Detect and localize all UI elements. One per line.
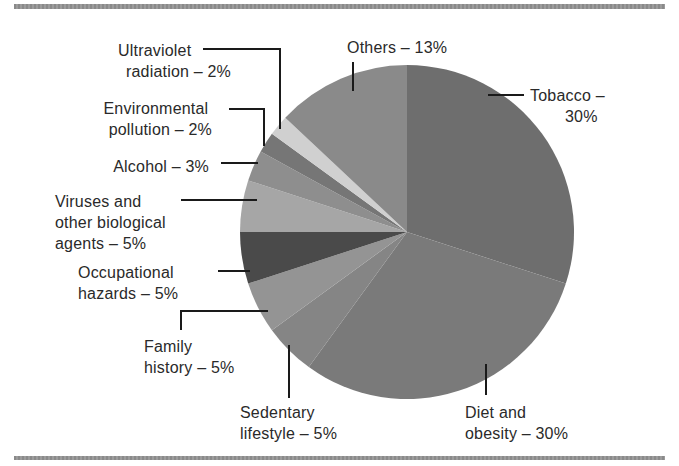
label-others: Others – 13%: [347, 39, 447, 56]
leader-ultraviolet: [203, 49, 280, 129]
label-occupational: Occupational hazards – 5%: [78, 264, 178, 302]
bottom-rule: [14, 456, 665, 460]
leader-environmental: [229, 109, 264, 146]
label-diet: Diet and obesity – 30%: [465, 404, 568, 442]
label-environmental: Environmental pollution – 2%: [103, 100, 213, 138]
label-viruses: Viruses and other biological agents – 5%: [55, 193, 170, 252]
pie-slices: [240, 65, 574, 399]
label-tobacco: Tobacco – 30%: [530, 87, 609, 125]
pie-chart: Ultraviolet radiation – 2% Environmental…: [0, 0, 679, 466]
label-family: Family history – 5%: [144, 338, 234, 376]
leader-family: [181, 311, 268, 330]
label-ultraviolet: Ultraviolet radiation – 2%: [118, 42, 231, 80]
label-sedentary: Sedentary lifestyle – 5%: [240, 404, 337, 442]
label-alcohol: Alcohol – 3%: [113, 158, 209, 175]
